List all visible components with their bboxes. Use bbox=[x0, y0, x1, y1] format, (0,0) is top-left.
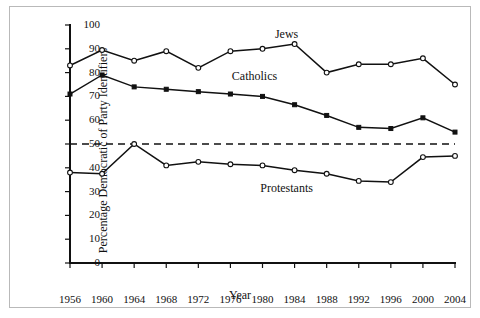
data-point-marker bbox=[261, 94, 265, 98]
data-point-marker bbox=[389, 127, 393, 131]
data-point-marker bbox=[164, 163, 169, 168]
data-point-marker bbox=[260, 163, 265, 168]
data-point-marker bbox=[292, 168, 297, 173]
data-point-marker bbox=[453, 154, 458, 159]
data-point-marker bbox=[356, 62, 361, 67]
data-point-marker bbox=[324, 171, 329, 176]
data-point-marker bbox=[292, 42, 297, 47]
data-point-marker bbox=[357, 125, 361, 129]
data-point-marker bbox=[356, 178, 361, 183]
chart-canvas bbox=[0, 0, 480, 318]
data-point-marker bbox=[453, 82, 458, 87]
data-point-marker bbox=[453, 130, 457, 134]
data-point-marker bbox=[100, 171, 105, 176]
data-point-marker bbox=[196, 65, 201, 70]
data-point-marker bbox=[293, 103, 297, 107]
data-point-marker bbox=[325, 113, 329, 117]
data-point-marker bbox=[421, 116, 425, 120]
series-line-catholics bbox=[70, 75, 455, 132]
data-point-marker bbox=[228, 92, 232, 96]
data-point-marker bbox=[196, 90, 200, 94]
data-point-marker bbox=[324, 70, 329, 75]
data-point-marker bbox=[132, 58, 137, 63]
data-point-marker bbox=[388, 62, 393, 67]
series-lines bbox=[68, 42, 458, 185]
data-point-marker bbox=[100, 73, 104, 77]
data-point-marker bbox=[228, 162, 233, 167]
data-point-marker bbox=[132, 85, 136, 89]
data-point-marker bbox=[164, 49, 169, 54]
data-point-marker bbox=[68, 63, 73, 68]
data-point-marker bbox=[132, 142, 137, 147]
data-point-marker bbox=[421, 56, 426, 61]
data-point-marker bbox=[196, 159, 201, 164]
data-point-marker bbox=[68, 170, 73, 175]
data-point-marker bbox=[388, 180, 393, 185]
data-point-marker bbox=[421, 155, 426, 160]
data-point-marker bbox=[100, 48, 105, 53]
axis-ticks bbox=[65, 25, 455, 268]
data-point-marker bbox=[68, 92, 72, 96]
data-point-marker bbox=[260, 46, 265, 51]
chart-page: Percentage Democratic of Party Identifie… bbox=[0, 0, 480, 318]
data-point-marker bbox=[228, 49, 233, 54]
data-point-marker bbox=[164, 87, 168, 91]
